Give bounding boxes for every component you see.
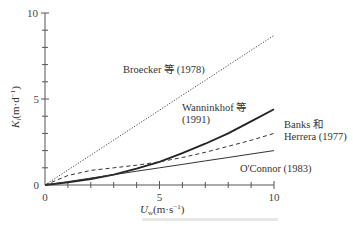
chart-canvas: 10 5 0 0 5 10 Uw(m·s−1) Kl(m·d−1) Broeck…	[0, 0, 353, 226]
x-tick-0: 0	[42, 191, 48, 203]
y-tick-10: 10	[27, 7, 39, 19]
x-tick-10: 10	[269, 191, 281, 203]
y-axis-title: Kl(m·d−1)	[9, 86, 23, 129]
label-wanninkhof-1: Wanninkhof 等	[182, 101, 247, 113]
label-banks-2: Herrera (1977)	[284, 131, 347, 143]
y-tick-0: 0	[34, 179, 40, 191]
label-wanninkhof-2: (1991)	[182, 114, 210, 126]
label-broecker: Broecker 等 (1978)	[123, 63, 205, 76]
label-banks-1: Banks 和	[284, 119, 323, 130]
series-banks-herrera-line	[45, 133, 274, 185]
x-tick-5: 5	[157, 191, 163, 203]
x-axis-title: Uw(m·s−1)	[140, 203, 185, 217]
x-axis	[45, 181, 274, 189]
figure-caption	[142, 218, 278, 221]
y-axis	[41, 13, 49, 185]
y-tick-5: 5	[34, 93, 40, 105]
label-oconnor: O'Connor (1983)	[240, 163, 312, 175]
